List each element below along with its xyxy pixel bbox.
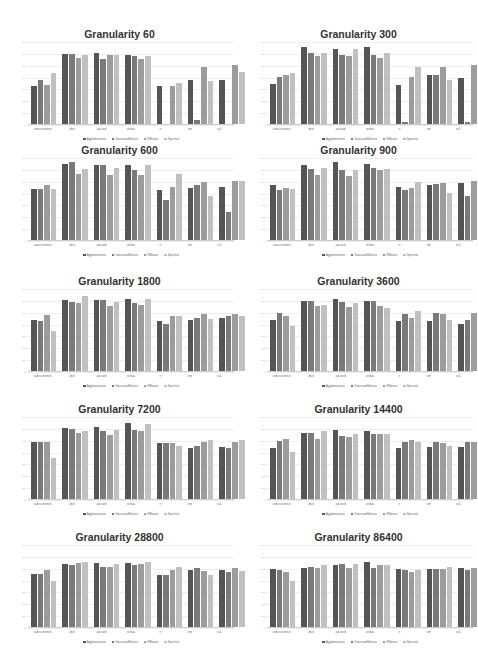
bar bbox=[76, 58, 82, 124]
x-tick-label: sm bbox=[175, 502, 204, 506]
bar bbox=[283, 572, 289, 627]
bar bbox=[188, 80, 194, 124]
bar bbox=[427, 321, 433, 371]
bar bbox=[353, 170, 359, 240]
bar bbox=[440, 569, 446, 627]
bar bbox=[371, 301, 377, 371]
bar bbox=[371, 55, 377, 124]
bar bbox=[339, 302, 345, 371]
bar-group bbox=[455, 545, 478, 627]
legend-item: Spectral bbox=[403, 253, 418, 257]
legend-label: Spectral bbox=[407, 253, 418, 257]
bar-group bbox=[154, 417, 185, 499]
y-tick-label: 0.2 bbox=[262, 100, 265, 103]
gridline bbox=[28, 125, 234, 126]
bar bbox=[145, 424, 151, 499]
y-tick-label: 0.3 bbox=[262, 463, 265, 466]
bar bbox=[396, 321, 402, 371]
bar bbox=[471, 181, 477, 240]
bar bbox=[315, 306, 321, 371]
x-tick-label: cooccurrence bbox=[28, 502, 57, 506]
y-tick-label: 0.5 bbox=[262, 311, 265, 314]
x-tick-label: ochiai bbox=[116, 127, 145, 131]
y-tick-label: 0.7 bbox=[262, 41, 265, 44]
bar bbox=[353, 303, 359, 371]
bar-group bbox=[59, 417, 90, 499]
bar bbox=[339, 170, 345, 240]
y-tick-label: 0.4 bbox=[23, 192, 26, 195]
y-tick-label: 0.3 bbox=[262, 591, 265, 594]
bar bbox=[371, 568, 377, 627]
bar-group bbox=[185, 545, 216, 627]
bar bbox=[219, 318, 225, 371]
legend-swatch-icon bbox=[164, 385, 167, 388]
x-tick-label: jaccard bbox=[87, 243, 116, 247]
chart-panel: Granularity 360000.10.20.30.40.50.60.7co… bbox=[239, 271, 478, 399]
legend-swatch-icon bbox=[322, 641, 325, 644]
bar bbox=[194, 568, 200, 627]
x-tick-label: dice bbox=[296, 243, 325, 247]
bar bbox=[371, 168, 377, 240]
y-tick-label: 0.7 bbox=[23, 288, 26, 291]
bar-group bbox=[122, 289, 153, 371]
bar bbox=[270, 320, 276, 371]
legend-swatch-icon bbox=[403, 641, 406, 644]
bar-group bbox=[154, 289, 185, 371]
y-tick-label: 0.2 bbox=[262, 216, 265, 219]
bar bbox=[427, 75, 433, 124]
bar bbox=[145, 165, 151, 240]
bar bbox=[62, 54, 68, 124]
bar bbox=[107, 435, 113, 499]
y-tick-label: 0.7 bbox=[23, 416, 26, 419]
legend-label: KMeans bbox=[386, 512, 397, 516]
legend-label: GaussianMixture bbox=[115, 512, 138, 516]
bar-group bbox=[298, 42, 329, 124]
chart-panel: Granularity 6000.10.20.30.40.50.60.7cooc… bbox=[0, 0, 239, 140]
legend-swatch-icon bbox=[83, 513, 86, 516]
x-tick-label: ss1 bbox=[444, 502, 473, 506]
legend-item: Agglomerative bbox=[322, 512, 345, 516]
bar bbox=[226, 448, 232, 499]
bar bbox=[301, 568, 307, 627]
y-tick-label: 0.2 bbox=[23, 475, 26, 478]
y-tick-label: 0.7 bbox=[23, 157, 26, 160]
bar bbox=[208, 575, 214, 627]
y-axis: 00.10.20.30.40.50.60.7 bbox=[253, 42, 265, 125]
x-tick-label: rr bbox=[146, 243, 175, 247]
y-tick-label: 0.6 bbox=[23, 427, 26, 430]
legend-label: Agglomerative bbox=[326, 253, 345, 257]
bar bbox=[333, 430, 339, 499]
bar bbox=[415, 311, 421, 371]
y-tick-label: 0.3 bbox=[262, 204, 265, 207]
legend-label: GaussianMixture bbox=[115, 640, 138, 644]
legend-label: Agglomerative bbox=[87, 512, 106, 516]
bar bbox=[333, 49, 339, 124]
bar-group bbox=[267, 158, 298, 240]
bar bbox=[396, 569, 402, 627]
y-tick-label: 0.6 bbox=[262, 52, 265, 55]
y-tick-label: 0.4 bbox=[262, 451, 265, 454]
bar-group bbox=[122, 42, 153, 124]
legend-swatch-icon bbox=[403, 513, 406, 516]
y-tick-label: 0.5 bbox=[23, 311, 26, 314]
bar bbox=[100, 165, 106, 240]
gridline bbox=[267, 628, 473, 629]
bar-group bbox=[393, 545, 424, 627]
legend: AgglomerativeGaussianMixtureKMeansSpectr… bbox=[28, 253, 234, 257]
x-tick-label: dice bbox=[296, 374, 325, 378]
chart-panel: Granularity 1440000.10.20.30.40.50.60.7c… bbox=[239, 399, 478, 527]
chart-title: Granularity 60 bbox=[0, 28, 239, 40]
gridline bbox=[28, 628, 234, 629]
plot-area: 00.10.20.30.40.50.60.7cooccurrencediceja… bbox=[28, 158, 234, 241]
gridline bbox=[267, 241, 473, 242]
y-tick-label: 0.6 bbox=[23, 299, 26, 302]
bar bbox=[377, 58, 383, 124]
y-tick-label: 0.6 bbox=[262, 555, 265, 558]
x-tick-label: ss1 bbox=[444, 127, 473, 131]
bar bbox=[447, 193, 453, 240]
legend-label: Spectral bbox=[168, 253, 179, 257]
y-tick-label: 0.1 bbox=[23, 615, 26, 618]
bar-group bbox=[424, 42, 455, 124]
bar-group bbox=[424, 545, 455, 627]
bar bbox=[69, 162, 75, 240]
